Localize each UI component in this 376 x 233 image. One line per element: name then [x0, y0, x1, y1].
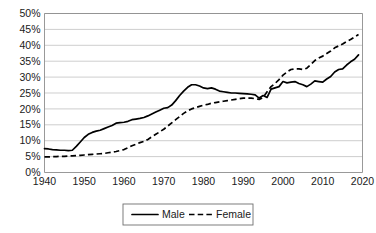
legend-label-male: Male — [162, 208, 185, 220]
x-tick-label: 2000 — [271, 175, 295, 187]
x-tick-label: 2020 — [351, 175, 375, 187]
x-tick-label: 1980 — [192, 175, 216, 187]
x-tick-label: 2010 — [311, 175, 335, 187]
y-tick-label: 15% — [19, 118, 40, 130]
x-axis-tick-labels: 194019501960197019801990200020102020 — [33, 175, 375, 187]
y-tick-label: 5% — [25, 150, 40, 162]
series-line-female — [45, 34, 359, 156]
x-tick-label: 1960 — [112, 175, 136, 187]
y-tick-label: 10% — [19, 134, 40, 146]
x-tick-label: 1950 — [73, 175, 97, 187]
y-tick-label: 20% — [19, 103, 40, 115]
y-axis-tick-labels: 0%5%10%15%20%25%30%35%40%45%50% — [19, 7, 40, 178]
data-series — [45, 34, 359, 156]
y-tick-label: 50% — [19, 7, 40, 19]
series-line-male — [45, 55, 359, 151]
legend-label-female: Female — [216, 208, 251, 220]
line-chart: 0%5%10%15%20%25%30%35%40%45%50% 19401950… — [0, 0, 376, 233]
chart-legend: MaleFemale — [123, 204, 253, 225]
x-tick-label: 1970 — [152, 175, 176, 187]
x-tick-label: 1940 — [33, 175, 57, 187]
y-tick-label: 45% — [19, 23, 40, 35]
y-tick-label: 35% — [19, 55, 40, 67]
chart-container: 0%5%10%15%20%25%30%35%40%45%50% 19401950… — [0, 0, 376, 233]
y-tick-label: 30% — [19, 71, 40, 83]
x-tick-label: 1990 — [232, 175, 256, 187]
y-tick-label: 25% — [19, 87, 40, 99]
y-tick-label: 40% — [19, 39, 40, 51]
gridlines — [45, 14, 363, 157]
